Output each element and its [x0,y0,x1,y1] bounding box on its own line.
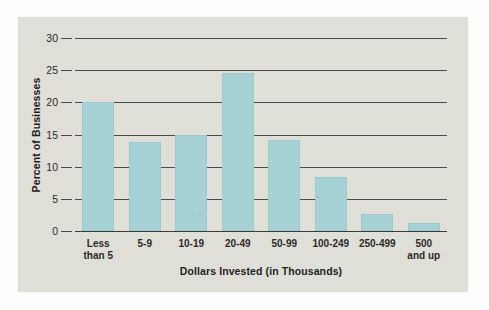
bar [82,102,114,231]
x-axis-tick-label: 500 and up [401,238,448,261]
y-axis-tick-label: 20 [18,97,58,108]
bar [175,135,207,231]
y-axis-tick-label: 0 [18,226,58,237]
scan-artifact-speck [317,196,319,198]
x-axis-title: Dollars Invested (in Thousands) [75,265,447,277]
gridline [75,70,447,71]
y-axis-tick-mark [61,231,72,232]
scan-artifact-speck [199,212,201,214]
x-axis-baseline [75,231,447,232]
y-axis-tick-label: 15 [18,130,58,141]
y-axis-tick-label: 25 [18,65,58,76]
bar-chart-figure: Percent of Businesses 051015202530 Less … [0,0,489,310]
bar [408,223,440,231]
x-axis-tick-label: 250-499 [354,238,401,250]
x-axis-tick-label: 20-49 [215,238,262,250]
y-axis-tick-mark [61,102,72,103]
y-axis-tick-mark [61,199,72,200]
y-axis-tick-label: 10 [18,162,58,173]
y-axis-tick-label: 30 [18,33,58,44]
y-axis-tick-label: 5 [18,194,58,205]
bar [129,142,161,231]
bar [315,177,347,231]
gridline [75,102,447,103]
x-axis-tick-label: Less than 5 [75,238,122,261]
y-axis-tick-mark [61,38,72,39]
gridline [75,38,447,39]
y-axis-tick-mark [61,167,72,168]
bar [361,214,393,231]
y-axis-tick-mark [61,135,72,136]
gridline [75,135,447,136]
x-axis-tick-label: 50-99 [261,238,308,250]
plot-area [75,38,447,231]
y-axis-tick-mark [61,70,72,71]
y-axis-tick-labels: 051015202530 [18,38,58,231]
bar [222,73,254,231]
bar [268,140,300,231]
x-axis-tick-label: 100-249 [308,238,355,250]
x-axis-tick-label: 5-9 [122,238,169,250]
x-axis-tick-label: 10-19 [168,238,215,250]
